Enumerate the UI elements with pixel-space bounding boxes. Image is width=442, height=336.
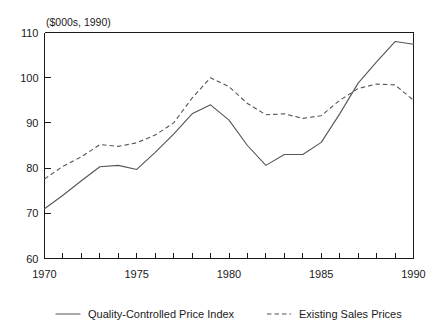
y-axis-ticks [45,33,51,259]
y-tick-label: 90 [26,117,38,129]
y-axis-tick-labels: 60708090100110 [20,27,38,265]
series-line-existing-sales-prices [45,78,414,179]
y-tick-label: 80 [26,162,38,174]
chart-series [45,42,414,209]
x-axis-tick-labels: 19701975198019851990 [32,268,425,280]
legend-label: Existing Sales Prices [299,308,402,320]
chart-unit-title: ($000s, 1990) [46,16,111,28]
y-tick-label: 70 [26,207,38,219]
series-line-quality-controlled-price-index [45,42,414,209]
y-tick-label: 100 [20,72,38,84]
chart-axes [45,33,414,259]
y-tick-label: 60 [26,253,38,265]
x-axis-ticks [45,253,414,259]
y-tick-label: 110 [21,27,39,39]
x-tick-label: 1980 [217,268,241,280]
chart-figure: ($000s, 1990) 60708090100110 19701975198… [0,0,442,336]
x-tick-label: 1985 [309,268,333,280]
x-tick-label: 1970 [32,268,56,280]
x-tick-label: 1990 [401,268,425,280]
legend-label: Quality-Controlled Price Index [88,308,235,320]
x-tick-label: 1975 [125,268,149,280]
chart-legend: Quality-Controlled Price IndexExisting S… [56,308,402,320]
line-chart-svg: ($000s, 1990) 60708090100110 19701975198… [0,0,442,336]
